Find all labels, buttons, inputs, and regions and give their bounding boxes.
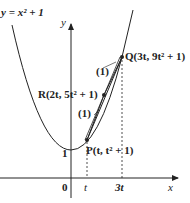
label-P: P(t, t² + 1) bbox=[86, 144, 134, 157]
curve-label: y = x² + 1 bbox=[0, 6, 44, 18]
label-R: R(2t, 5t² + 1) bbox=[38, 88, 98, 101]
segment-label-RQ: (1) bbox=[96, 65, 109, 78]
point-R bbox=[102, 93, 106, 97]
label-Q: Q(3t, 9t² + 1) bbox=[125, 50, 186, 63]
parabola-diagram: y = x² + 1 y x 0 1 t 3t P(t, t² + 1) R(2… bbox=[0, 0, 190, 203]
segment-label-PR: (1) bbox=[78, 107, 91, 120]
y-intercept-label: 1 bbox=[62, 147, 68, 159]
y-axis-label: y bbox=[60, 16, 66, 28]
parabola-curve bbox=[12, 10, 133, 150]
origin-label: 0 bbox=[62, 181, 68, 193]
x-axis-label: x bbox=[167, 181, 173, 193]
point-Q bbox=[120, 55, 124, 59]
tick-3t: 3t bbox=[114, 181, 125, 193]
tick-t: t bbox=[84, 181, 88, 193]
point-P bbox=[85, 138, 89, 142]
